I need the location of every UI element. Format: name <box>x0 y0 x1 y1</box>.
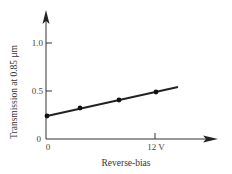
y-tick-label-0: 0 <box>37 134 42 144</box>
x-axis-label: Reverse-bias <box>101 158 150 168</box>
chart: 0 0.5 1.0 0 12 V Reverse-bias Transmissi… <box>0 0 232 174</box>
data-point-12 <box>154 90 159 95</box>
data-line <box>47 87 178 116</box>
data-point-4 <box>78 106 83 111</box>
y-tick-label-1.0: 1.0 <box>32 38 44 48</box>
y-tick-label-0.5: 0.5 <box>32 86 44 96</box>
x-tick-label-12: 12 V <box>147 142 165 152</box>
x-tick-label-0: 0 <box>46 142 51 152</box>
data-point-8 <box>117 98 122 103</box>
y-axis-label: Transmission at 0.85 μm <box>9 44 19 139</box>
data-point-0 <box>45 114 50 119</box>
